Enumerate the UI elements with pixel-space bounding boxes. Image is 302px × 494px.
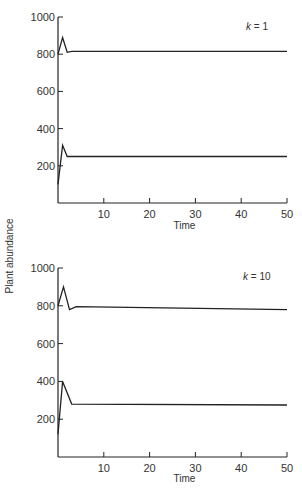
x-tick-label: 40 (235, 208, 247, 220)
y-tick-label: 200 (37, 160, 55, 172)
k-annotation: k = 10 (243, 271, 271, 282)
y-axis: 2004006008001000 (31, 11, 63, 203)
x-tick-label: 50 (281, 462, 293, 474)
x-tick-label: 30 (189, 208, 201, 220)
data-lines (58, 287, 287, 434)
k-annotation: k = 1 (246, 21, 268, 32)
y-tick-label: 1000 (31, 262, 55, 274)
series-line-upper (58, 38, 287, 55)
y-tick-label: 400 (37, 123, 55, 135)
figure: Plant abundance 1020304050 2004006008001… (0, 0, 302, 494)
data-lines (58, 38, 287, 185)
x-tick-label: 40 (235, 462, 247, 474)
x-tick-label: 50 (281, 208, 293, 220)
y-tick-label: 800 (37, 300, 55, 312)
x-tick-label: 10 (98, 208, 110, 220)
x-tick-label: 10 (98, 462, 110, 474)
chart-panel-k10: 1020304050 2004006008001000 Time k = 10 (31, 262, 294, 484)
y-tick-label: 400 (37, 375, 55, 387)
y-tick-label: 800 (37, 48, 55, 60)
chart-panel-k1: 1020304050 2004006008001000 Time k = 1 (31, 11, 294, 231)
x-axis: 1020304050 (58, 198, 293, 220)
series-line-lower (58, 145, 287, 184)
series-line-upper (58, 287, 287, 310)
x-axis-title: Time (174, 220, 196, 231)
series-line-lower (58, 381, 287, 434)
y-axis-title: Plant abundance (4, 218, 15, 294)
x-axis-title: Time (174, 473, 196, 484)
y-tick-label: 200 (37, 413, 55, 425)
y-tick-label: 600 (37, 338, 55, 350)
y-tick-label: 1000 (31, 11, 55, 23)
x-tick-label: 20 (143, 208, 155, 220)
y-tick-label: 600 (37, 85, 55, 97)
x-axis: 1020304050 (58, 452, 293, 474)
x-tick-label: 20 (143, 462, 155, 474)
